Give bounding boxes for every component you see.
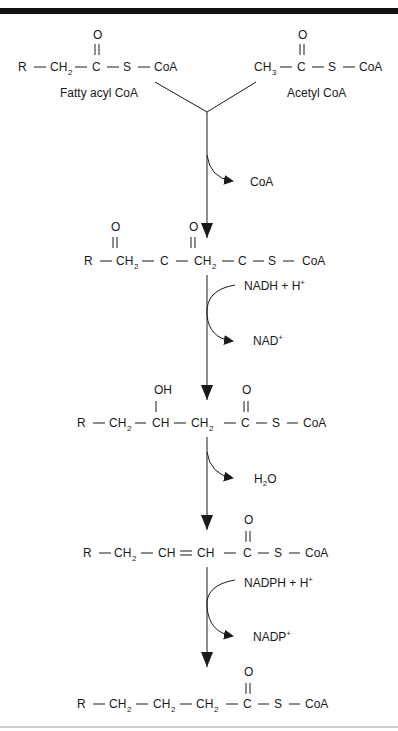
atom-ch: CH	[153, 697, 170, 711]
atom-ch: CH	[109, 416, 126, 430]
atom-ch: CH	[197, 546, 214, 560]
converge-line-right	[207, 82, 256, 112]
subscript: 2	[134, 262, 139, 271]
coa-released-label: CoA	[250, 175, 273, 189]
fatty-acyl-coa-label: Fatty acyl CoA	[60, 86, 138, 100]
atom-coa: CoA	[303, 416, 326, 430]
enoyl-coa-structure: O R CH 2 CH CH C S CoA	[83, 513, 328, 563]
water-release-curve	[207, 452, 232, 478]
atom-c: C	[92, 60, 101, 74]
nadh-cofactor-curve	[207, 285, 235, 341]
water-label: H2O	[254, 472, 276, 488]
atom-c: C	[160, 254, 169, 268]
subscript: 2	[171, 705, 176, 714]
nadph-label: NADPH + H+	[244, 575, 313, 590]
atom-c: C	[243, 697, 252, 711]
subscript: 2	[127, 424, 132, 433]
nadph-cofactor-curve	[207, 580, 235, 636]
atom-r: R	[84, 254, 93, 268]
atom-r: R	[77, 697, 86, 711]
atom-s: S	[123, 60, 131, 74]
subscript: 2	[68, 68, 73, 77]
atom-coa: CoA	[154, 60, 177, 74]
atom-c: C	[243, 546, 252, 560]
atom-ch: CH	[194, 254, 211, 268]
atom-ch: CH	[158, 546, 175, 560]
thioester-oxygen: O	[244, 513, 253, 527]
atom-coa: CoA	[305, 697, 328, 711]
atom-coa: CoA	[302, 254, 325, 268]
atom-ch: CH	[109, 697, 126, 711]
atom-c: C	[238, 254, 247, 268]
subscript: 2	[209, 424, 214, 433]
atom-ch: CH	[50, 60, 67, 74]
converge-line-left	[155, 82, 207, 112]
subscript: 3	[272, 68, 277, 77]
atom-ch: CH	[114, 546, 131, 560]
ketoacyl-coa-structure: O O R CH 2 C CH 2 C S CoA	[84, 220, 325, 271]
thioester-oxygen: O	[242, 383, 251, 397]
atom-ch: CH	[152, 416, 169, 430]
carbonyl-oxygen: O	[93, 28, 102, 42]
atom-ch: CH	[196, 697, 213, 711]
atom-ch: CH	[191, 416, 208, 430]
subscript: 2	[212, 262, 217, 271]
atom-s: S	[274, 697, 282, 711]
nadp-label: NADP+	[253, 629, 291, 644]
atom-r: R	[18, 60, 27, 74]
atom-r: R	[77, 416, 86, 430]
atom-s: S	[274, 546, 282, 560]
keto-oxygen: O	[111, 220, 120, 234]
carbonyl-oxygen: O	[298, 28, 307, 42]
fatty-acyl-coa-structure: O R CH 2 C S CoA Fatty acyl CoA	[18, 28, 177, 100]
thioester-oxygen: O	[189, 220, 198, 234]
atom-ch: CH	[254, 60, 271, 74]
hydroxyl-group: OH	[154, 383, 172, 397]
atom-s: S	[272, 416, 280, 430]
elongated-acyl-coa-structure: O R CH 2 CH 2 CH 2 C S CoA	[77, 665, 328, 714]
coa-release-curve	[207, 155, 232, 181]
subscript: 2	[127, 705, 132, 714]
atom-s: S	[328, 60, 336, 74]
top-border-bar	[0, 8, 398, 14]
atom-s: S	[268, 254, 276, 268]
acetyl-coa-label: Acetyl CoA	[287, 86, 346, 100]
subscript: 2	[132, 554, 137, 563]
fatty-acid-elongation-diagram: O R CH 2 C S CoA Fatty acyl CoA O CH 3 C…	[0, 0, 398, 731]
subscript: 2	[214, 705, 219, 714]
hydroxyacyl-coa-structure: OH O R CH 2 CH CH 2 C S CoA	[77, 383, 326, 433]
atom-coa: CoA	[305, 546, 328, 560]
nad-label: NAD+	[253, 333, 283, 348]
atom-c: C	[297, 60, 306, 74]
acetyl-coa-structure: O CH 3 C S CoA Acetyl CoA	[254, 28, 382, 100]
atom-r: R	[83, 546, 92, 560]
atom-c: C	[241, 416, 250, 430]
atom-ch: CH	[116, 254, 133, 268]
nadh-label: NADH + H+	[244, 278, 305, 293]
thioester-oxygen: O	[244, 665, 253, 679]
atom-coa: CoA	[359, 60, 382, 74]
